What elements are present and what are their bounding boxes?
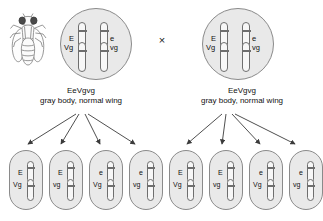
allele-label: vg bbox=[293, 181, 301, 188]
parent-phenotype-right: gray body, normal wing bbox=[161, 96, 323, 107]
allele-label: e bbox=[259, 169, 263, 176]
allele-label: e bbox=[299, 169, 303, 176]
allele-label: E bbox=[58, 169, 63, 176]
chromosome-bottom bbox=[307, 179, 314, 201]
allele-label: e bbox=[252, 35, 256, 43]
gamete-arrows-right bbox=[161, 106, 323, 152]
parent-cell-left: E e Vg vg bbox=[60, 8, 132, 80]
chromosome-bottom bbox=[107, 179, 114, 201]
allele-label: Vg bbox=[173, 181, 182, 188]
chromosome-bottom bbox=[67, 179, 74, 201]
genetics-cross-diagram: E e Vg vg EeVgvg gray body, normal wing … bbox=[0, 0, 323, 221]
gamete-cell: E Vg bbox=[169, 150, 203, 210]
gamete-cell: e Vg bbox=[89, 150, 123, 210]
chromosome-bottom bbox=[187, 179, 194, 201]
gamete-cell: E vg bbox=[49, 150, 83, 210]
allele-label: vg bbox=[53, 181, 61, 188]
allele-label: E bbox=[69, 35, 74, 43]
allele-label: Vg bbox=[93, 181, 102, 188]
gamete-cell: E Vg bbox=[9, 150, 43, 210]
parent-genotype-left: EeVgvg bbox=[0, 86, 162, 97]
allele-label: E bbox=[218, 169, 223, 176]
gamete-cell: E vg bbox=[209, 150, 243, 210]
chromosome-vg bbox=[242, 42, 250, 72]
chromosome-bottom bbox=[147, 179, 154, 201]
fruit-fly-icon bbox=[8, 12, 48, 72]
parent-genotype-right: EeVgvg bbox=[161, 86, 323, 97]
allele-label: E bbox=[178, 169, 183, 176]
allele-label: Vg bbox=[13, 181, 22, 188]
parent-cell-right: E e Vg vg bbox=[202, 8, 274, 80]
allele-label: vg bbox=[133, 181, 141, 188]
allele-label: vg bbox=[110, 44, 118, 52]
allele-label: e bbox=[139, 169, 143, 176]
chromosome-vg bbox=[100, 42, 108, 72]
allele-label: E bbox=[211, 35, 216, 43]
allele-label: e bbox=[99, 169, 103, 176]
allele-label: E bbox=[18, 169, 23, 176]
gamete-row-right: E Vg E vg e Vg bbox=[161, 150, 323, 218]
chromosome-bottom bbox=[227, 179, 234, 201]
chromosome-Vg bbox=[78, 42, 86, 72]
gamete-row-left: E Vg E vg e Vg bbox=[0, 150, 162, 218]
allele-label: vg bbox=[252, 44, 260, 52]
gamete-cell: e Vg bbox=[249, 150, 283, 210]
chromosome-bottom bbox=[27, 179, 34, 201]
allele-label: Vg bbox=[64, 44, 73, 52]
allele-label: Vg bbox=[253, 181, 262, 188]
allele-label: e bbox=[110, 35, 114, 43]
allele-label: Vg bbox=[206, 44, 215, 52]
parent-left: E e Vg vg EeVgvg gray body, normal wing bbox=[0, 0, 162, 112]
parent-phenotype-left: gray body, normal wing bbox=[0, 96, 162, 107]
gamete-cell: e vg bbox=[289, 150, 323, 210]
parent-right: E e Vg vg bbox=[161, 0, 323, 112]
chromosome-bottom bbox=[267, 179, 274, 201]
gamete-cell: e vg bbox=[129, 150, 163, 210]
chromosome-Vg bbox=[220, 42, 228, 72]
gamete-arrows-left bbox=[0, 106, 162, 152]
allele-label: vg bbox=[213, 181, 221, 188]
